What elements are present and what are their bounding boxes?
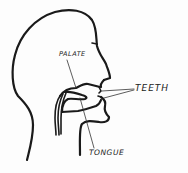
upper-lip	[101, 80, 104, 87]
palate-label: PALATE	[59, 51, 86, 58]
teeth-label: TEETH	[135, 84, 169, 93]
diagram-canvas: PALATE TEETH TONGUE	[0, 0, 188, 173]
tongue-label: TONGUE	[89, 149, 124, 157]
teeth-leader-upper	[102, 89, 134, 91]
teeth-leader-lower	[104, 90, 134, 98]
lower-teeth	[98, 96, 101, 97]
airway-tube-3	[61, 93, 66, 134]
palate-leader	[67, 60, 76, 88]
brow-mark	[92, 43, 97, 44]
tongue-outline	[62, 92, 101, 112]
